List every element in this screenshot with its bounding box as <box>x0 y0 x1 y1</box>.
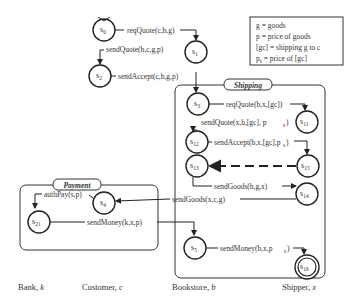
transition-sendquote-bcgp: sendQuote(b,c,g,p) <box>100 45 185 64</box>
legend-price: p = price of goods <box>256 32 311 41</box>
state-s2: s2 <box>89 65 111 87</box>
svg-text:reqQuote(b,x,[gc]): reqQuote(b,x,[gc]) <box>226 100 283 109</box>
svg-text:): ) <box>287 244 290 253</box>
transition-sendgoods-xcg: sendGoods(x,c,g) <box>116 195 296 204</box>
payment-title: Payment <box>63 181 91 190</box>
svg-text:s: s <box>283 122 285 128</box>
transition-sendgoods-bgx: sendGoods(b,g,x) <box>193 177 296 191</box>
state-s11: s11 <box>296 111 318 133</box>
legend-shipping: [gc] = shipping g to c <box>256 43 321 52</box>
role-labels: Bank, k Customer, c Bookstore, b Shipper… <box>18 282 316 292</box>
svg-text:sendMoney(k,x,p): sendMoney(k,x,p) <box>87 218 142 227</box>
svg-text:sendGoods(x,c,g): sendGoods(x,c,g) <box>172 195 225 204</box>
state-s13: s13 <box>186 155 208 177</box>
svg-text:sendAccept(c,b,g,p): sendAccept(c,b,g,p) <box>118 72 179 81</box>
transition-sendmoney-bxp: sendMoney(b,x,p s ) <box>206 244 304 254</box>
svg-text:authPay(s,p): authPay(s,p) <box>44 190 82 199</box>
state-s3: s3 <box>187 93 209 115</box>
svg-text:sendMoney(b,x,p: sendMoney(b,x,p <box>220 244 273 253</box>
svg-text:): ) <box>286 118 289 127</box>
svg-text:sendQuote(x,b,[gc], p: sendQuote(x,b,[gc], p <box>201 118 267 127</box>
state-s0: s0 <box>93 17 115 41</box>
svg-text:sendGoods(b,g,x): sendGoods(b,g,x) <box>214 182 268 191</box>
role-customer: Customer, c <box>82 282 123 292</box>
state-s16-final: s16 <box>295 255 319 279</box>
legend-box: g = goods p = price of goods [gc] = ship… <box>250 17 343 65</box>
shipping-title: Shipping <box>234 81 262 90</box>
state-s5: s5 <box>184 237 206 259</box>
svg-text:s: s <box>283 142 285 148</box>
svg-text:): ) <box>286 138 289 147</box>
svg-text:sendQuote(b,c,g,p): sendQuote(b,c,g,p) <box>106 45 164 54</box>
legend-ps: ps = price of [gc] <box>256 54 307 64</box>
legend-goods: g = goods <box>256 21 286 30</box>
state-s14: s14 <box>296 183 318 205</box>
state-s1: s1 <box>185 41 207 63</box>
state-s15: s15 <box>297 155 319 177</box>
transition-reqquote-bx-gc: reqQuote(b,x,[gc]) <box>209 100 305 110</box>
svg-text:s: s <box>284 248 286 254</box>
transition-sendaccept-cbgp: sendAccept(c,b,g,p) <box>111 72 196 92</box>
svg-text:reqQuote(c,b,g): reqQuote(c,b,g) <box>127 26 175 35</box>
role-shipper: Shipper, x <box>282 282 316 292</box>
role-bookstore: Bookstore, b <box>172 282 215 292</box>
role-bank: Bank, k <box>18 282 44 292</box>
transition-sendquote-xb-gc: sendQuote(x,b,[gc], p s ) <box>193 118 289 131</box>
state-s4: s4 <box>93 192 115 214</box>
svg-text:sendAccept(b,x,[gc],p: sendAccept(b,x,[gc],p <box>214 138 281 147</box>
state-s12: s12 <box>186 131 208 153</box>
transition-sendaccept-bx-gc: sendAccept(b,x,[gc],p s ) <box>208 138 307 154</box>
transition-authpay: authPay(s,p) <box>35 190 93 208</box>
protocol-diagram: g = goods p = price of goods [gc] = ship… <box>0 0 356 306</box>
transition-sendmoney-kxp: sendMoney(k,x,p) <box>50 218 194 235</box>
transition-reqquote-cbg: reqQuote(c,b,g) <box>115 26 196 40</box>
state-s21: s21 <box>28 211 50 233</box>
